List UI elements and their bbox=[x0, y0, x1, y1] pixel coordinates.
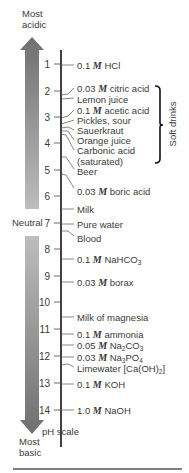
substance-naoh: 1.0 M NaOH bbox=[77, 405, 131, 416]
tick-5: 5 bbox=[20, 165, 50, 176]
tick-11: 11 bbox=[20, 324, 50, 335]
substance-borax: 0.03 M borax bbox=[77, 277, 133, 288]
substance-lemon-juice: Lemon juice bbox=[77, 94, 128, 105]
tick-6: 6 bbox=[20, 191, 50, 202]
most-basic-label: Most basic bbox=[19, 436, 41, 458]
substance-nahco3: 0.1 M NaHCO3 bbox=[77, 254, 141, 265]
substance-citric-acid: 0.03 M citric acid bbox=[77, 83, 149, 94]
substance-carbonic-acid: Carbonic acid bbox=[77, 145, 135, 156]
tick-3: 3 bbox=[20, 112, 50, 123]
most-acidic-label: Most acidic bbox=[22, 8, 46, 30]
substance-milk: Milk bbox=[77, 204, 94, 215]
tick-12: 12 bbox=[20, 351, 50, 362]
tick-8: 8 bbox=[20, 244, 50, 255]
tick-1: 1 bbox=[20, 59, 50, 70]
substance-blood: Blood bbox=[77, 233, 101, 244]
substance-na2co3: 0.05 M Na2CO3 bbox=[77, 340, 143, 351]
tick-13: 13 bbox=[20, 378, 50, 389]
tick-4: 4 bbox=[20, 138, 50, 149]
tick-9: 9 bbox=[20, 271, 50, 282]
substance-hcl: 0.1 M HCl bbox=[77, 60, 120, 71]
tick-7: 7 bbox=[20, 218, 50, 229]
substance-pure-water: Pure water bbox=[77, 219, 123, 230]
substance-boric-acid: 0.03 M boric acid bbox=[77, 186, 150, 197]
substance-beer: Beer bbox=[77, 166, 97, 177]
ph-scale-label: pH scale bbox=[42, 426, 79, 437]
substance-na3po4: 0.03 M Na3PO4 bbox=[77, 352, 143, 363]
soft-drinks-bracket bbox=[155, 86, 163, 163]
substance-limewater: Limewater [Ca(OH)2] bbox=[77, 363, 165, 374]
substance-koh: 0.1 M KOH bbox=[77, 379, 125, 390]
tick-marks bbox=[54, 64, 61, 410]
tick-2: 2 bbox=[20, 86, 50, 97]
substance-milk-of-magnesia: Milk of magnesia bbox=[77, 312, 148, 323]
tick-10: 10 bbox=[20, 297, 50, 308]
leader-lines bbox=[61, 65, 74, 410]
tick-14: 14 bbox=[20, 405, 50, 416]
substance-ammonia: 0.1 M ammonia bbox=[77, 329, 143, 340]
soft-drinks-label: Soft drinks bbox=[167, 99, 178, 149]
